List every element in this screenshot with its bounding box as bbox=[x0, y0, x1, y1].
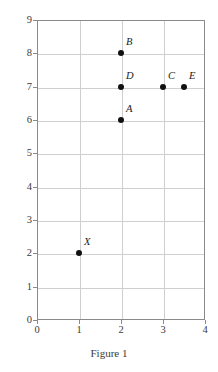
y-tick-mark bbox=[33, 20, 37, 21]
x-tick-label: 4 bbox=[197, 325, 213, 336]
y-tick-label: 3 bbox=[18, 215, 32, 226]
y-tick-mark bbox=[33, 153, 37, 154]
gridline-horizontal bbox=[38, 221, 204, 222]
x-tick-label: 0 bbox=[29, 325, 45, 336]
data-point-label-x: X bbox=[84, 237, 90, 248]
data-point-c bbox=[160, 84, 166, 90]
figure-container: 012345678901234 BDACEX Figure 1 bbox=[0, 0, 218, 372]
gridline-horizontal bbox=[38, 154, 204, 155]
data-point-label-d: D bbox=[126, 71, 134, 82]
y-tick-mark bbox=[33, 253, 37, 254]
data-point-d bbox=[118, 84, 124, 90]
y-tick-mark bbox=[33, 53, 37, 54]
data-point-label-a: A bbox=[126, 104, 132, 115]
y-tick-label: 7 bbox=[18, 82, 32, 93]
x-tick-label: 3 bbox=[155, 325, 171, 336]
data-point-label-b: B bbox=[126, 37, 132, 48]
y-tick-label: 2 bbox=[18, 248, 32, 259]
data-point-label-c: C bbox=[168, 71, 175, 82]
data-point-a bbox=[118, 117, 124, 123]
y-tick-label: 9 bbox=[18, 15, 32, 26]
data-point-label-e: E bbox=[189, 71, 195, 82]
y-tick-label: 6 bbox=[18, 115, 32, 126]
gridline-vertical bbox=[164, 21, 165, 319]
y-tick-label: 1 bbox=[18, 282, 32, 293]
gridline-vertical bbox=[122, 21, 123, 319]
y-tick-label: 5 bbox=[18, 148, 32, 159]
y-tick-mark bbox=[33, 87, 37, 88]
y-tick-label: 8 bbox=[18, 48, 32, 59]
figure-caption: Figure 1 bbox=[0, 347, 218, 359]
x-tick-label: 1 bbox=[71, 325, 87, 336]
gridline-vertical bbox=[80, 21, 81, 319]
gridline-horizontal bbox=[38, 188, 204, 189]
y-tick-label: 0 bbox=[18, 315, 32, 326]
gridline-horizontal bbox=[38, 288, 204, 289]
y-tick-mark bbox=[33, 120, 37, 121]
plot-area bbox=[37, 20, 205, 320]
data-point-e bbox=[181, 84, 187, 90]
y-tick-mark bbox=[33, 287, 37, 288]
y-tick-mark bbox=[33, 187, 37, 188]
gridline-horizontal bbox=[38, 254, 204, 255]
x-tick-label: 2 bbox=[113, 325, 129, 336]
y-tick-label: 4 bbox=[18, 182, 32, 193]
y-tick-mark bbox=[33, 220, 37, 221]
